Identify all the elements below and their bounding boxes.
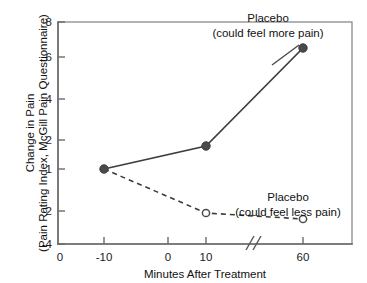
x-tick-label: 10 bbox=[200, 251, 213, 263]
x-tick-label: 60 bbox=[297, 251, 310, 263]
x-axis-ticks bbox=[104, 237, 303, 244]
data-point-shared-origin bbox=[100, 165, 108, 173]
data-point-more-pain bbox=[202, 142, 210, 150]
x-tick-label: 0 bbox=[165, 251, 171, 263]
y-axis-title-line2: (Pain Rating Index, McGill Pain Question… bbox=[37, 14, 49, 252]
pain-change-line-chart: 8 6 4 2 1 -2 -4 0 -10 0 10 60 Minu bbox=[0, 0, 367, 283]
x-axis-tick-labels: 0 -10 0 10 60 bbox=[57, 251, 310, 263]
annotation-less-pain-line1: Placebo bbox=[267, 191, 309, 203]
y-axis-title-line1: Change in Pain bbox=[24, 94, 36, 173]
data-point-less-pain bbox=[202, 209, 209, 216]
chart-figure: 8 6 4 2 1 -2 -4 0 -10 0 10 60 Minu bbox=[0, 0, 367, 283]
x-axis-break-icon bbox=[246, 236, 261, 250]
y-axis-ticks bbox=[58, 22, 65, 244]
annotation-more-pain-line1: Placebo bbox=[247, 12, 289, 24]
series-line-more-pain bbox=[104, 48, 303, 169]
x-tick-label: 0 bbox=[57, 251, 63, 263]
annotation-less-pain-line2: (could feel less pain) bbox=[235, 206, 341, 218]
x-tick-label: -10 bbox=[96, 251, 113, 263]
annotation-more-pain-line2: (could feel more pain) bbox=[212, 27, 323, 39]
data-point-more-pain bbox=[299, 44, 307, 52]
x-axis-title: Minutes After Treatment bbox=[144, 268, 267, 280]
